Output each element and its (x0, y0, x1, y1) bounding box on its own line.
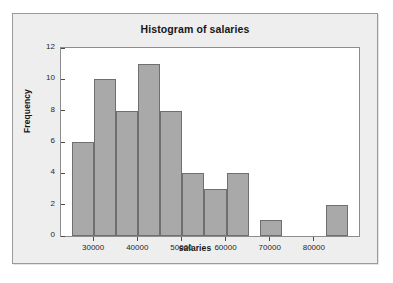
x-tick-label: 60000 (214, 243, 236, 252)
chart-title: Histogram of salaries (13, 23, 377, 35)
y-tick-label: 4 (51, 167, 55, 176)
x-tick-mark (93, 237, 94, 241)
histogram-bar (204, 189, 226, 236)
histogram-bar (72, 142, 94, 236)
y-axis-label: Frequency (22, 66, 32, 156)
histogram-bar (326, 205, 348, 236)
x-tick-mark (137, 237, 138, 241)
y-tick-mark (61, 110, 65, 111)
y-tick-label: 0 (51, 230, 55, 239)
y-tick-label: 6 (51, 136, 55, 145)
y-tick-label: 2 (51, 199, 55, 208)
x-tick-label: 30000 (82, 243, 104, 252)
x-axis: 300004000050000600007000080000 (60, 237, 360, 263)
histogram-bar (260, 220, 282, 236)
y-tick-label: 10 (46, 73, 55, 82)
histogram-bar (160, 111, 182, 236)
x-tick-label: 50000 (170, 243, 192, 252)
y-tick-mark (61, 142, 65, 143)
histogram-bar (182, 173, 204, 236)
histogram-bar (94, 79, 116, 236)
y-tick-mark (61, 79, 65, 80)
chart-frame: Histogram of salaries Frequency salaries… (12, 13, 378, 264)
y-tick-mark (61, 173, 65, 174)
x-tick-mark (269, 237, 270, 241)
x-tick-label: 70000 (259, 243, 281, 252)
y-tick-label: 12 (46, 42, 55, 51)
plot-area: 024681012 (60, 47, 360, 237)
histogram-bar (138, 64, 160, 236)
x-tick-label: 40000 (126, 243, 148, 252)
histogram-bars (61, 48, 359, 236)
x-tick-label: 80000 (303, 243, 325, 252)
y-tick-mark (61, 48, 65, 49)
histogram-bar (227, 173, 249, 236)
y-tick-mark (61, 204, 65, 205)
x-tick-mark (313, 237, 314, 241)
x-tick-mark (225, 237, 226, 241)
x-tick-mark (181, 237, 182, 241)
histogram-bar (116, 111, 138, 236)
y-tick-label: 8 (51, 105, 55, 114)
